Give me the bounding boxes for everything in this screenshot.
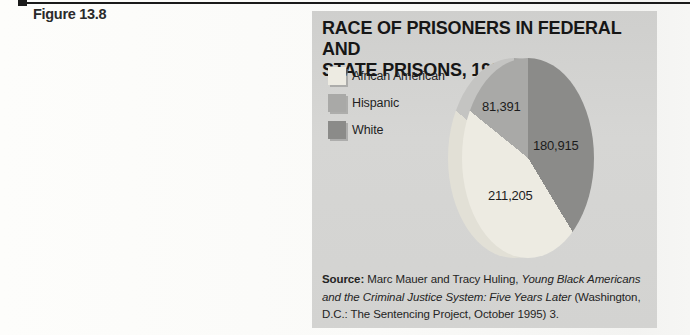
source-note: Source: Marc Mauer and Tracy Huling, You… bbox=[322, 271, 654, 324]
pie-chart bbox=[462, 58, 594, 258]
legend-label-white: White bbox=[352, 123, 383, 137]
chart-title-line-1: RACE OF PRISONERS IN FEDERAL AND bbox=[322, 18, 652, 60]
legend-label-african-american: African American bbox=[352, 69, 445, 83]
chart-panel: RACE OF PRISONERS IN FEDERAL AND STATE P… bbox=[312, 11, 657, 328]
legend-swatch-white bbox=[328, 121, 346, 139]
top-rule bbox=[18, 2, 690, 4]
legend-item-hispanic: Hispanic bbox=[328, 94, 445, 112]
source-line: Source: Marc Mauer and Tracy Huling, You… bbox=[322, 271, 654, 289]
textbook-figure-page: Figure 13.8 RACE OF PRISONERS IN FEDERAL… bbox=[0, 0, 690, 335]
source-line: and the Criminal Justice System: Five Ye… bbox=[322, 289, 654, 307]
source-line: D.C.: The Sentencing Project, October 19… bbox=[322, 306, 654, 324]
pie-value-white: 180,915 bbox=[533, 138, 579, 153]
legend-item-african-american: African American bbox=[328, 67, 445, 85]
figure-label: Figure 13.8 bbox=[33, 6, 106, 22]
legend-label-hispanic: Hispanic bbox=[352, 96, 399, 110]
legend-swatch-african-american bbox=[328, 67, 346, 85]
legend-item-white: White bbox=[328, 121, 445, 139]
pie-value-african-american: 211,205 bbox=[488, 188, 533, 203]
legend-swatch-hispanic bbox=[328, 94, 346, 112]
pie-value-hispanic: 81,391 bbox=[482, 99, 521, 114]
legend: African American Hispanic White bbox=[328, 67, 445, 148]
